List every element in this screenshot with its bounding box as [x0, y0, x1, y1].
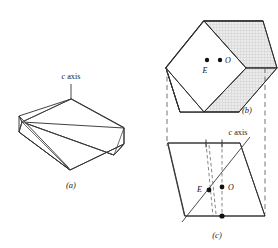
panel-a-c-axis-label: c axis	[62, 72, 81, 81]
panel-c-c-axis-label: c axis	[229, 128, 248, 137]
panel-b-extraordinary-dot	[205, 58, 209, 62]
crystal-optics-diagram: c axis (a)	[0, 0, 278, 248]
panel-c-caption: (c)	[212, 230, 222, 240]
panel-b: E O (b)	[166, 21, 277, 115]
panel-a: c axis (a)	[19, 72, 124, 190]
figure-root: c axis (a)	[0, 0, 278, 248]
panel-b-ordinary-dot	[218, 58, 222, 62]
panel-c-extraordinary-label: E	[196, 185, 202, 194]
panel-b-extraordinary-label: E	[202, 66, 208, 75]
panel-a-caption: (a)	[66, 180, 76, 190]
panel-c: c axis E O (c)	[168, 128, 265, 240]
panel-c-exit-dot	[219, 213, 224, 218]
panel-c-extraordinary-dot	[207, 188, 212, 193]
panel-b-caption: (b)	[242, 105, 252, 115]
panel-c-ordinary-dot	[220, 185, 225, 190]
panel-b-ordinary-label: O	[225, 56, 231, 65]
panel-c-ordinary-label: O	[228, 183, 234, 192]
